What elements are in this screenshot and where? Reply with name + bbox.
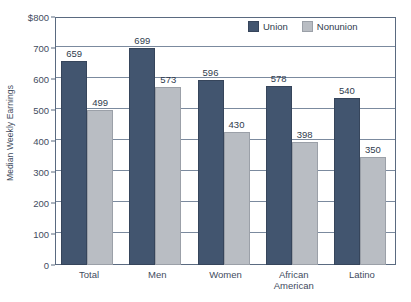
y-axis-tick-label: 200 bbox=[33, 198, 49, 209]
bar-nonunion[interactable] bbox=[155, 87, 181, 265]
x-axis-category-label: African American bbox=[274, 269, 314, 291]
bar-value-label: 596 bbox=[203, 67, 219, 78]
nonunion-swatch-icon bbox=[302, 21, 313, 32]
bar-value-label: 573 bbox=[160, 74, 176, 85]
y-axis-tick-label: 500 bbox=[33, 105, 49, 116]
y-axis-tick-label: 700 bbox=[33, 43, 49, 54]
bar-union[interactable] bbox=[61, 61, 87, 265]
union-swatch-icon bbox=[248, 21, 259, 32]
bar-value-label: 430 bbox=[229, 119, 245, 130]
bar-value-label: 540 bbox=[339, 85, 355, 96]
bar-union[interactable] bbox=[198, 80, 224, 265]
x-axis-category-label: Total bbox=[79, 269, 99, 280]
chart-legend: Union Nonunion bbox=[244, 17, 362, 35]
bar-value-label: 578 bbox=[271, 73, 287, 84]
y-axis-ticks: 0100200300400500600700$800 bbox=[0, 0, 55, 302]
y-axis-tick-label: 600 bbox=[33, 74, 49, 85]
bar-union[interactable] bbox=[129, 48, 155, 265]
bar-value-label: 659 bbox=[66, 48, 82, 59]
bar-nonunion[interactable] bbox=[87, 110, 113, 265]
bar-value-label: 350 bbox=[365, 144, 381, 155]
bar-value-label: 398 bbox=[297, 129, 313, 140]
y-axis-tick-label: 400 bbox=[33, 136, 49, 147]
x-axis-category-label: Men bbox=[148, 269, 166, 280]
y-axis-tick-label: 300 bbox=[33, 167, 49, 178]
bar-value-label: 699 bbox=[134, 35, 150, 46]
x-axis-category-label: Latino bbox=[349, 269, 375, 280]
bars-layer: 659499699573596430578398540350 bbox=[55, 17, 396, 265]
bar-value-label: 499 bbox=[92, 97, 108, 108]
x-axis-labels: TotalMenWomenAfrican AmericanLatino bbox=[55, 269, 396, 302]
y-axis-tick-label: 100 bbox=[33, 229, 49, 240]
bar-union[interactable] bbox=[266, 86, 292, 265]
y-axis-tick-label: 0 bbox=[44, 260, 49, 271]
bar-chart: Median Weekly Earnings 01002003004005006… bbox=[0, 0, 411, 302]
legend-label-union: Union bbox=[263, 21, 288, 32]
legend-item-union[interactable]: Union bbox=[248, 21, 288, 32]
bar-union[interactable] bbox=[334, 98, 360, 265]
bar-nonunion[interactable] bbox=[224, 132, 250, 265]
x-axis-category-label: Women bbox=[209, 269, 242, 280]
legend-label-nonunion: Nonunion bbox=[317, 21, 358, 32]
legend-item-nonunion[interactable]: Nonunion bbox=[302, 21, 358, 32]
y-axis-tick-label: $800 bbox=[28, 12, 49, 23]
bar-nonunion[interactable] bbox=[360, 157, 386, 266]
bar-nonunion[interactable] bbox=[292, 142, 318, 265]
